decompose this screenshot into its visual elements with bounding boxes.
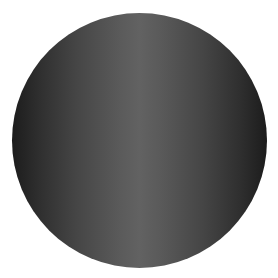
- shaded-sphere-graphic: [12, 13, 267, 268]
- cropped-caption-text: [0, 0, 278, 5]
